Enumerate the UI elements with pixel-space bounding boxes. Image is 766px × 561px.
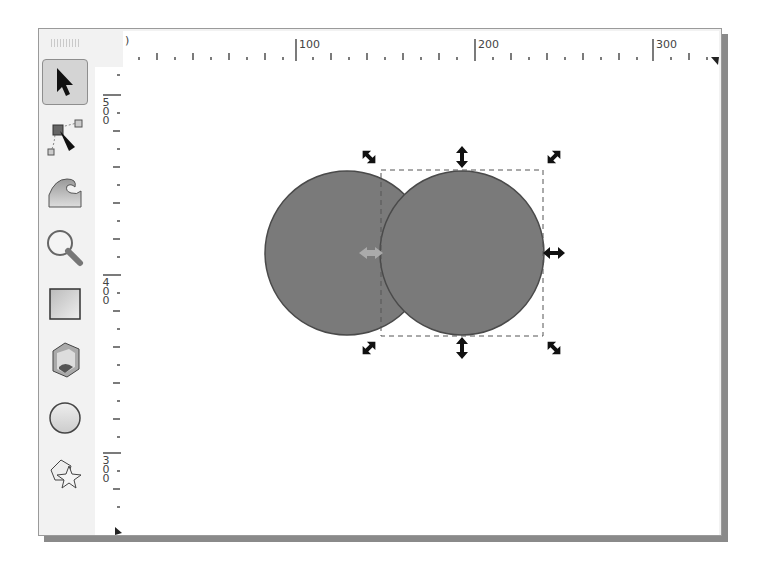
scale-handle-bottom[interactable]	[456, 337, 468, 359]
vertical-ruler-label-300: 300	[101, 456, 111, 483]
drawing-canvas[interactable]	[123, 67, 719, 535]
ruler-ticks	[123, 31, 719, 67]
magnifier-icon	[44, 227, 86, 269]
vertical-ruler[interactable]: 500 400 300	[95, 67, 123, 535]
tweak-tool-button[interactable]	[42, 169, 88, 215]
scale-handle-bottom-left[interactable]	[358, 337, 379, 358]
horizontal-ruler[interactable]: )	[123, 31, 719, 67]
rectangle-tool-button[interactable]	[42, 281, 88, 327]
selector-tool-button[interactable]	[42, 59, 88, 105]
zoom-tool-button[interactable]	[42, 225, 88, 271]
toolbox	[40, 57, 92, 533]
cube-icon	[47, 339, 83, 381]
scale-handle-right[interactable]	[543, 247, 565, 259]
node-edit-icon	[45, 117, 85, 159]
canvas-drawing	[123, 67, 719, 535]
ruler-label-300: 300	[656, 39, 677, 50]
circle-icon	[47, 400, 83, 436]
vertical-ruler-label-500: 500	[101, 98, 111, 125]
square-icon	[47, 286, 83, 322]
scale-handle-top-left[interactable]	[358, 146, 379, 167]
circle-shape-right-selected[interactable]	[380, 171, 544, 335]
star-polygon-icon	[45, 452, 85, 492]
vertical-ruler-label-400: 400	[101, 278, 111, 305]
inkscape-window: )	[38, 28, 722, 536]
wave-tweak-icon	[45, 173, 85, 211]
ruler-label-100: 100	[299, 39, 320, 50]
ruler-label-200: 200	[478, 39, 499, 50]
scale-handle-top[interactable]	[456, 146, 468, 168]
3d-box-tool-button[interactable]	[42, 337, 88, 383]
star-polygon-tool-button[interactable]	[42, 449, 88, 495]
scale-handle-top-right[interactable]	[543, 146, 564, 167]
node-tool-button[interactable]	[42, 115, 88, 161]
scale-handle-bottom-right[interactable]	[543, 337, 564, 358]
toolbar-grip-handle[interactable]	[51, 39, 79, 47]
arrow-pointer-icon	[50, 65, 80, 99]
ellipse-tool-button[interactable]	[42, 395, 88, 441]
